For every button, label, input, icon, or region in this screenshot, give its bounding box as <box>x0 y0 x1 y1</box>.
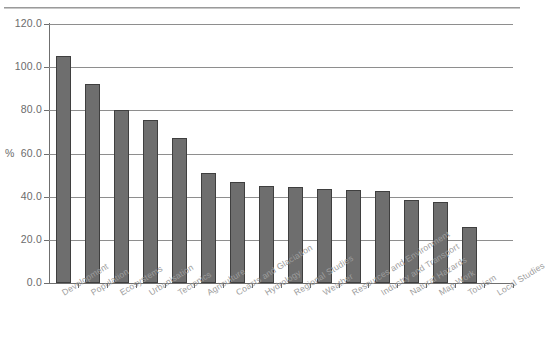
y-axis-tick <box>44 154 49 155</box>
y-axis-tick-label: 0.0 <box>27 276 42 288</box>
x-axis-tick <box>107 284 108 288</box>
x-axis-tick <box>513 284 514 288</box>
x-axis-tick <box>339 284 340 288</box>
bar <box>346 190 361 283</box>
x-axis-tick <box>165 284 166 288</box>
x-axis-tick <box>455 284 456 288</box>
y-axis-tick-label: 60.0 <box>21 147 42 159</box>
header-divider-light <box>4 8 520 9</box>
bar <box>317 189 332 283</box>
y-axis-tick-label: 80.0 <box>21 103 42 115</box>
bar <box>259 186 274 283</box>
y-axis-tick-label: 100.0 <box>15 60 42 72</box>
y-axis-labels: 120.0100.080.060.040.020.00.0 <box>0 0 42 359</box>
y-axis-tick-label: 20.0 <box>21 233 42 245</box>
x-axis-tick <box>397 284 398 288</box>
x-axis-tick <box>426 284 427 288</box>
bar <box>404 200 419 283</box>
x-axis-tick <box>484 284 485 288</box>
bar-series <box>49 24 513 283</box>
x-axis-tick <box>368 284 369 288</box>
bar <box>201 173 216 283</box>
y-axis-tick <box>44 67 49 68</box>
y-axis-tick <box>44 240 49 241</box>
y-axis-tick <box>44 197 49 198</box>
x-axis-tick <box>223 284 224 288</box>
bar <box>143 120 158 283</box>
bar <box>375 191 390 283</box>
x-axis-tick <box>136 284 137 288</box>
y-axis-tick <box>44 283 49 284</box>
bar <box>230 182 245 283</box>
x-axis-tick <box>281 284 282 288</box>
x-axis-tick <box>310 284 311 288</box>
bar <box>85 84 100 283</box>
bar <box>56 56 71 283</box>
x-axis-tick <box>252 284 253 288</box>
x-axis-tick <box>194 284 195 288</box>
bar <box>288 187 303 283</box>
bar <box>114 110 129 283</box>
y-axis-tick-label: 40.0 <box>21 190 42 202</box>
y-axis-tick <box>44 110 49 111</box>
x-axis-tick <box>78 284 79 288</box>
bar <box>433 202 448 283</box>
bar <box>172 138 187 283</box>
bar <box>462 227 477 283</box>
y-axis-title: % <box>5 147 14 159</box>
y-axis-tick <box>44 24 49 25</box>
y-axis-tick-label: 120.0 <box>15 17 42 29</box>
